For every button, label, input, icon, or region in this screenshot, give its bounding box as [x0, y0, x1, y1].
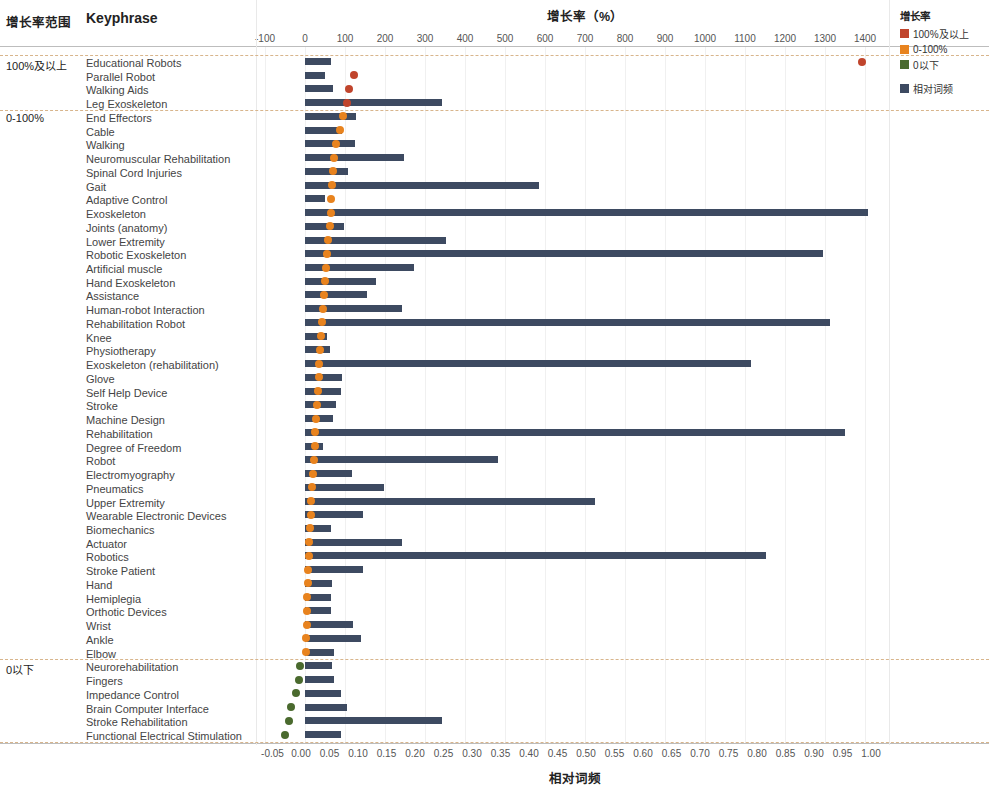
growth-rate-dot[interactable] — [303, 593, 311, 601]
growth-rate-dot[interactable] — [287, 703, 295, 711]
growth-rate-dot[interactable] — [310, 456, 318, 464]
growth-rate-dot[interactable] — [336, 126, 344, 134]
growth-rate-dot[interactable] — [296, 662, 304, 670]
growth-rate-dot[interactable] — [339, 112, 347, 120]
chart-row[interactable]: Robotic Exoskeleton — [0, 248, 989, 262]
growth-rate-dot[interactable] — [312, 415, 320, 423]
growth-rate-dot[interactable] — [328, 181, 336, 189]
frequency-bar[interactable] — [305, 552, 766, 559]
growth-rate-dot[interactable] — [315, 373, 323, 381]
chart-row[interactable]: Exoskeleton — [0, 207, 989, 221]
frequency-bar[interactable] — [305, 154, 404, 161]
chart-row[interactable]: Orthotic Devices — [0, 605, 989, 619]
growth-rate-dot[interactable] — [319, 305, 327, 313]
frequency-bar[interactable] — [305, 704, 347, 711]
growth-rate-dot[interactable] — [311, 428, 319, 436]
chart-row[interactable]: Assistance — [0, 289, 989, 303]
growth-rate-dot[interactable] — [326, 222, 334, 230]
chart-row[interactable]: Walking — [0, 138, 989, 152]
chart-row[interactable]: Gait — [0, 180, 989, 194]
growth-rate-dot[interactable] — [304, 579, 312, 587]
frequency-bar[interactable] — [305, 85, 333, 92]
growth-rate-dot[interactable] — [316, 346, 324, 354]
chart-row[interactable]: Human-robot Interaction — [0, 303, 989, 317]
frequency-bar[interactable] — [305, 456, 498, 463]
growth-rate-dot[interactable] — [307, 511, 315, 519]
chart-row[interactable]: Hemiplegia — [0, 592, 989, 606]
chart-row[interactable]: Hand — [0, 578, 989, 592]
legend-item[interactable]: 0-100% — [900, 44, 986, 55]
growth-rate-dot[interactable] — [318, 318, 326, 326]
growth-rate-dot[interactable] — [306, 524, 314, 532]
growth-rate-dot[interactable] — [329, 167, 337, 175]
chart-row[interactable]: Spinal Cord Injuries — [0, 166, 989, 180]
chart-row[interactable]: Joints (anatomy) — [0, 221, 989, 235]
chart-row[interactable]: Ankle — [0, 633, 989, 647]
frequency-bar[interactable] — [305, 374, 342, 381]
chart-row[interactable]: Brain Computer Interface — [0, 702, 989, 716]
chart-row[interactable]: Physiotherapy — [0, 344, 989, 358]
chart-row[interactable]: Parallel Robot — [0, 70, 989, 84]
chart-row[interactable]: Neuromuscular Rehabilitation — [0, 152, 989, 166]
chart-row[interactable]: Adaptive Control — [0, 193, 989, 207]
chart-row[interactable]: Cable — [0, 125, 989, 139]
growth-rate-dot[interactable] — [292, 689, 300, 697]
frequency-bar[interactable] — [305, 539, 402, 546]
frequency-bar[interactable] — [305, 223, 344, 230]
chart-row[interactable]: Functional Electrical Stimulation — [0, 729, 989, 743]
frequency-bar[interactable] — [305, 319, 830, 326]
chart-row[interactable]: Elbow — [0, 647, 989, 661]
growth-rate-dot[interactable] — [323, 250, 331, 258]
growth-rate-dot[interactable] — [295, 676, 303, 684]
chart-row[interactable]: Stroke Rehabilitation — [0, 715, 989, 729]
chart-row[interactable]: Rehabilitation Robot — [0, 317, 989, 331]
frequency-bar[interactable] — [305, 168, 348, 175]
growth-rate-dot[interactable] — [305, 552, 313, 560]
frequency-bar[interactable] — [305, 662, 332, 669]
frequency-bar[interactable] — [305, 140, 355, 147]
growth-rate-dot[interactable] — [320, 291, 328, 299]
chart-row[interactable]: Biomechanics — [0, 523, 989, 537]
frequency-bar[interactable] — [305, 621, 353, 628]
growth-rate-dot[interactable] — [311, 442, 319, 450]
growth-rate-dot[interactable] — [350, 71, 358, 79]
chart-row[interactable]: Hand Exoskeleton — [0, 276, 989, 290]
frequency-bar[interactable] — [305, 182, 539, 189]
chart-row[interactable]: Stroke Patient — [0, 564, 989, 578]
growth-rate-dot[interactable] — [302, 648, 310, 656]
chart-row[interactable]: Fingers — [0, 674, 989, 688]
growth-rate-dot[interactable] — [345, 85, 353, 93]
frequency-bar[interactable] — [305, 278, 376, 285]
chart-row[interactable]: Self Help Device — [0, 386, 989, 400]
growth-rate-dot[interactable] — [302, 634, 310, 642]
chart-row[interactable]: Upper Extremity — [0, 496, 989, 510]
frequency-bar[interactable] — [305, 209, 868, 216]
chart-row[interactable]: Robot — [0, 454, 989, 468]
growth-rate-dot[interactable] — [321, 277, 329, 285]
chart-row[interactable]: Leg Exoskeleton — [0, 97, 989, 111]
frequency-bar[interactable] — [305, 99, 442, 106]
chart-row[interactable]: Wrist — [0, 619, 989, 633]
chart-row[interactable]: Exoskeleton (rehabilitation) — [0, 358, 989, 372]
growth-rate-dot[interactable] — [281, 731, 289, 739]
frequency-bar[interactable] — [305, 429, 845, 436]
frequency-bar[interactable] — [305, 676, 334, 683]
chart-row[interactable]: 0-100%End Effectors — [0, 111, 989, 125]
growth-rate-dot[interactable] — [304, 566, 312, 574]
frequency-bar[interactable] — [305, 291, 367, 298]
growth-rate-dot[interactable] — [322, 264, 330, 272]
growth-rate-dot[interactable] — [307, 497, 315, 505]
growth-rate-dot[interactable] — [324, 236, 332, 244]
chart-row[interactable]: Artificial muscle — [0, 262, 989, 276]
frequency-bar[interactable] — [305, 72, 325, 79]
frequency-bar[interactable] — [305, 731, 341, 738]
frequency-bar[interactable] — [305, 388, 341, 395]
growth-rate-dot[interactable] — [317, 332, 325, 340]
chart-row[interactable]: Impedance Control — [0, 688, 989, 702]
growth-rate-dot[interactable] — [327, 195, 335, 203]
chart-row[interactable]: Robotics — [0, 550, 989, 564]
growth-rate-dot[interactable] — [303, 621, 311, 629]
frequency-bar[interactable] — [305, 195, 325, 202]
chart-row[interactable]: Lower Extremity — [0, 235, 989, 249]
chart-row[interactable]: Electromyography — [0, 468, 989, 482]
